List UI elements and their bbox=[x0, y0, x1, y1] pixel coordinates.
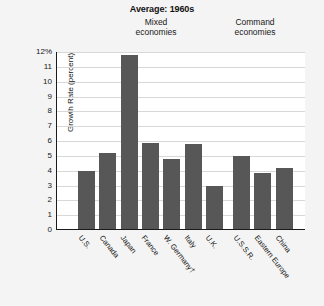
y-axis-tick-label: 5 bbox=[48, 152, 52, 160]
y-axis-tick-label: 2 bbox=[48, 196, 52, 204]
y-axis-tick-label: 4 bbox=[48, 167, 52, 175]
bar bbox=[121, 55, 138, 229]
y-axis-tick-label: 0 bbox=[48, 226, 52, 234]
plot-area: Growth Rate (percent) 12%11109876543210 bbox=[56, 52, 305, 230]
chart-title: Average: 1960s bbox=[0, 4, 324, 14]
gridline bbox=[57, 52, 305, 53]
gridline bbox=[57, 156, 305, 157]
group-header-command-line1: Command bbox=[216, 17, 294, 27]
bar bbox=[254, 173, 271, 229]
bar bbox=[206, 186, 223, 229]
gridline bbox=[57, 111, 305, 112]
y-axis-tick-label: 3 bbox=[48, 182, 52, 190]
y-axis-tick-label: 1 bbox=[48, 211, 52, 219]
gridline bbox=[57, 82, 305, 83]
y-axis-title: Growth Rate (percent) bbox=[66, 33, 75, 153]
group-header-mixed-line2: economies bbox=[118, 27, 194, 37]
y-axis-tick-label: 7 bbox=[48, 122, 52, 130]
gridline bbox=[57, 126, 305, 127]
y-axis-tick-label: 6 bbox=[48, 137, 52, 145]
gridline bbox=[57, 97, 305, 98]
y-axis-tick-label: 10 bbox=[43, 78, 52, 86]
group-header-mixed-line1: Mixed bbox=[118, 17, 194, 27]
group-header-command-economies: Command economies bbox=[216, 17, 294, 37]
bar bbox=[78, 171, 95, 229]
x-axis-tick-label: U.K. bbox=[204, 234, 219, 250]
x-axis-tick-label: France bbox=[140, 234, 161, 257]
gridline bbox=[57, 141, 305, 142]
bar bbox=[99, 153, 116, 229]
y-axis-tick-label: 11 bbox=[44, 63, 52, 71]
bar bbox=[163, 159, 180, 229]
x-axis-tick-label: China bbox=[274, 234, 292, 254]
bar-chart: Average: 1960s Mixed economies Command e… bbox=[0, 0, 324, 306]
y-axis-tick-label: 8 bbox=[48, 107, 52, 115]
bar bbox=[233, 156, 250, 229]
bar bbox=[276, 168, 293, 229]
group-header-mixed-economies: Mixed economies bbox=[118, 17, 194, 37]
group-header-command-line2: economies bbox=[216, 27, 294, 37]
x-axis-tick-label: Canada bbox=[97, 234, 119, 260]
bar bbox=[185, 144, 202, 229]
x-axis-tick-label: Japan bbox=[119, 234, 138, 255]
y-axis-tick-label: 9 bbox=[48, 93, 52, 101]
x-axis-tick-label: Italy bbox=[183, 234, 198, 250]
y-axis-tick-label: 12% bbox=[36, 48, 52, 56]
gridline bbox=[57, 67, 305, 68]
bar bbox=[142, 143, 159, 229]
x-axis-tick-label: U.S. bbox=[76, 234, 91, 250]
